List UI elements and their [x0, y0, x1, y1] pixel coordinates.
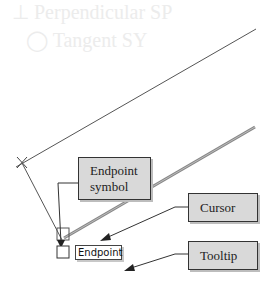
callout-endpoint-symbol-line2: symbol: [90, 179, 150, 195]
callout-endpoint-symbol-line1: Endpoint: [90, 163, 150, 179]
cursor-leader-arrow-icon: [100, 233, 111, 241]
callout-tooltip: Tooltip: [188, 241, 258, 270]
snap-tooltip: Endpoint: [75, 245, 122, 260]
callout-cursor: Cursor: [188, 193, 258, 222]
cursor-square: [57, 246, 69, 258]
cursor-leader: [106, 207, 188, 238]
callout-endpoint-symbol: Endpoint symbol: [78, 157, 151, 200]
tooltip-leader-arrow-icon: [124, 264, 135, 271]
x-marker-icon: [17, 157, 27, 168]
rubber-band-line: [22, 163, 62, 240]
tooltip-leader: [131, 254, 188, 268]
